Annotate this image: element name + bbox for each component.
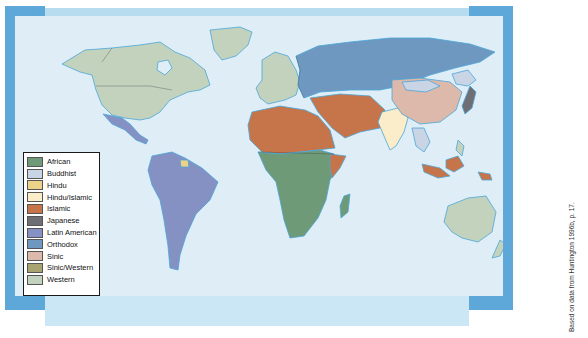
legend-item-hindu: Hindu xyxy=(27,180,99,192)
legend-swatch xyxy=(27,263,43,273)
region-horn-of-africa xyxy=(330,154,346,178)
legend-label: Latin American xyxy=(47,229,97,237)
region-se-asia-buddhist xyxy=(412,128,430,152)
legend-label: Islamic xyxy=(47,205,70,213)
region-sub-saharan-africa xyxy=(258,150,338,238)
frame-corner-bottom-left xyxy=(5,296,45,310)
frame-left-bar xyxy=(5,6,15,306)
region-new-zealand xyxy=(492,240,503,258)
legend-swatch xyxy=(27,169,43,179)
frame-bottom-strip xyxy=(45,296,469,326)
legend-swatch xyxy=(27,216,43,226)
legend-label: African xyxy=(47,158,70,166)
legend-item-latin-american: Latin American xyxy=(27,227,99,239)
region-korea xyxy=(452,70,476,86)
region-guiana xyxy=(180,160,189,167)
legend-item-orthodox: Orthodox xyxy=(27,239,99,251)
legend-item-islamic: Islamic xyxy=(27,203,99,215)
region-philippines xyxy=(456,140,464,156)
region-borneo xyxy=(446,156,464,172)
legend-item-japanese: Japanese xyxy=(27,215,99,227)
frame-corner-bottom-right xyxy=(469,296,513,310)
legend-item-western: Western xyxy=(27,274,99,286)
region-japan xyxy=(462,86,476,114)
legend-item-sinic: Sinic xyxy=(27,250,99,262)
legend-label: Western xyxy=(47,276,75,284)
region-papua xyxy=(478,172,492,180)
legend-swatch xyxy=(27,251,43,261)
legend-label: Hindu xyxy=(47,182,67,190)
legend-swatch xyxy=(27,228,43,238)
region-south-america xyxy=(148,152,218,270)
legend-swatch xyxy=(27,192,43,202)
legend-item-african: African xyxy=(27,156,99,168)
legend-label: Hindu/Islamic xyxy=(47,194,92,202)
legend-swatch xyxy=(27,204,43,214)
region-madagascar xyxy=(340,194,350,218)
legend-swatch xyxy=(27,180,43,190)
frame-right-bar xyxy=(503,6,513,306)
map-legend: African Buddhist Hindu Hindu/Islamic Isl… xyxy=(23,152,100,296)
legend-label: Japanese xyxy=(47,217,80,225)
region-western-europe xyxy=(256,52,300,104)
legend-item-buddhist: Buddhist xyxy=(27,168,99,180)
legend-label: Buddhist xyxy=(47,170,76,178)
region-australia xyxy=(444,196,496,242)
region-north-america xyxy=(62,42,210,120)
legend-label: Sinic xyxy=(47,253,63,261)
legend-item-sinic-western: Sinic/Western xyxy=(27,262,99,274)
legend-swatch xyxy=(27,275,43,285)
legend-swatch xyxy=(27,157,43,167)
legend-swatch xyxy=(27,239,43,249)
legend-label: Orthodox xyxy=(47,241,78,249)
legend-item-hindu-islamic: Hindu/Islamic xyxy=(27,191,99,203)
source-credit: Based on data from Huntington 1996b, p. … xyxy=(568,202,575,332)
region-greenland xyxy=(210,27,252,60)
legend-label: Sinic/Western xyxy=(47,264,93,272)
